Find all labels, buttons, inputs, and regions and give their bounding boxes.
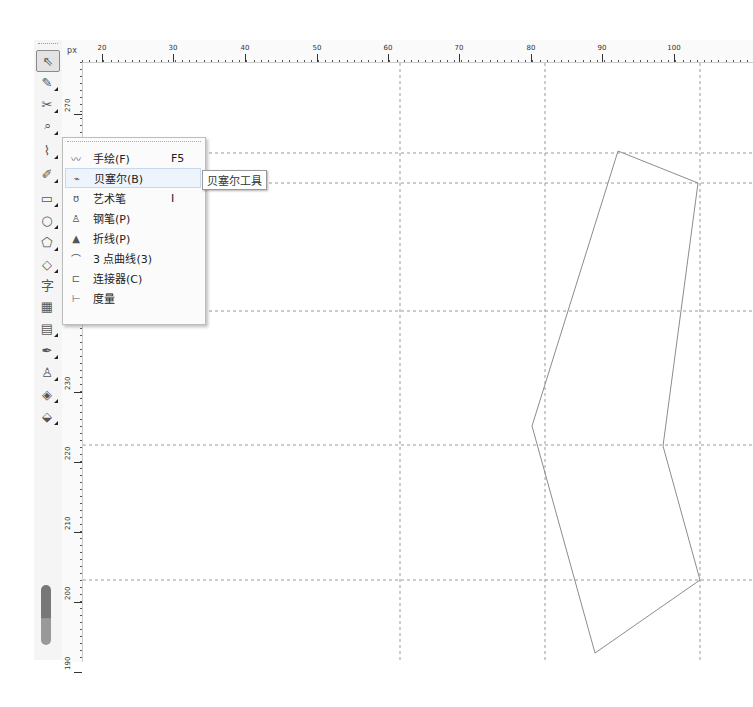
- ruler-tick: [575, 60, 576, 62]
- flyout-indicator-icon: [54, 377, 58, 381]
- ruler-tick: [411, 60, 412, 62]
- ruler-tick: [354, 60, 355, 62]
- menu-item-label: 艺术笔: [93, 190, 171, 206]
- ruler-tick: [80, 132, 82, 133]
- ruler-tick: [80, 349, 82, 350]
- menu-item-pen[interactable]: ♙钢笔(P): [65, 208, 201, 228]
- flyout-indicator-icon: [54, 155, 58, 159]
- ruler-tick: [325, 60, 326, 62]
- ruler-tick: [80, 517, 82, 518]
- flyout-indicator-icon: [54, 355, 58, 359]
- ruler-tick: [690, 60, 691, 62]
- ruler-tick: [618, 60, 619, 62]
- ruler-tick: [80, 69, 82, 70]
- toolbox-grip[interactable]: [38, 43, 58, 45]
- ruler-tick: [80, 125, 82, 126]
- menu-item-dimension[interactable]: ⊢度量: [65, 288, 201, 308]
- eyedropper-tool[interactable]: ✒: [36, 340, 58, 360]
- ruler-tick: [80, 384, 82, 385]
- scrollbar-thumb[interactable]: [41, 585, 51, 645]
- ruler-tick: [80, 636, 82, 637]
- pick-tool[interactable]: ⇖: [36, 50, 60, 72]
- fill-tool[interactable]: ◈: [36, 384, 58, 404]
- flyout-indicator-icon: [54, 203, 58, 207]
- ruler-tick: [80, 398, 82, 399]
- menu-item-bezier[interactable]: ⌁贝塞尔(B): [65, 168, 201, 188]
- ruler-tick: [80, 454, 82, 455]
- drawn-polygon[interactable]: [532, 151, 700, 653]
- ruler-tick: [697, 60, 698, 62]
- flyout-grip[interactable]: [67, 141, 201, 142]
- ruler-tick: [268, 60, 269, 62]
- outline-pen-tool-icon: ♙: [41, 365, 53, 380]
- interactive-fill-tool[interactable]: ⬙: [36, 406, 58, 426]
- ruler-tick: [418, 60, 419, 62]
- ruler-origin-corner[interactable]: px: [62, 40, 82, 62]
- zoom-tool[interactable]: ⌕: [36, 116, 58, 136]
- ruler-major-tick: [388, 54, 389, 62]
- ruler-label: 20: [98, 44, 107, 52]
- ruler-tick: [175, 60, 176, 62]
- ruler-tick: [339, 60, 340, 62]
- ruler-tick: [80, 496, 82, 497]
- ruler-tick: [225, 60, 226, 62]
- shape-tool[interactable]: ✎: [36, 72, 58, 92]
- menu-item-polyline[interactable]: ▲折线(P): [65, 228, 201, 248]
- ruler-tick: [511, 60, 512, 62]
- ruler-label: 50: [313, 44, 322, 52]
- ruler-label: 70: [455, 44, 464, 52]
- polygon-tool[interactable]: ⬠: [36, 232, 58, 252]
- ruler-tick: [125, 60, 126, 62]
- rectangle-tool[interactable]: ▭: [36, 188, 58, 208]
- menu-item-3-point-curve[interactable]: ⌒3 点曲线(3): [65, 248, 201, 268]
- horizontal-ruler[interactable]: 2030405060708090100: [82, 40, 753, 63]
- ruler-label: 30: [169, 44, 178, 52]
- menu-item-connector[interactable]: ⊏连接器(C): [65, 268, 201, 288]
- ruler-tick: [740, 60, 741, 62]
- zoom-tool-icon: ⌕: [44, 118, 51, 134]
- ruler-tick: [80, 363, 82, 364]
- table-tool-icon: ▦: [41, 299, 53, 314]
- ruler-major-tick: [74, 532, 82, 533]
- ruler-label: 100: [667, 44, 680, 52]
- flyout-indicator-icon: [54, 131, 58, 135]
- curve-tools-flyout: 〰手绘(F)F5⌁贝塞尔(B)ʊ艺术笔I♙钢笔(P)▲折线(P)⌒3 点曲线(3…: [62, 137, 206, 325]
- ruler-tick: [604, 60, 605, 62]
- ruler-major-tick: [102, 54, 103, 62]
- ruler-tick: [80, 356, 82, 357]
- ruler-tick: [80, 573, 82, 574]
- ruler-tick: [726, 60, 727, 62]
- flyout-indicator-icon: [54, 333, 58, 337]
- text-tool[interactable]: 字: [36, 274, 58, 294]
- ruler-tick: [80, 440, 82, 441]
- ruler-tick: [80, 650, 82, 651]
- ruler-tick: [554, 60, 555, 62]
- ruler-tick: [80, 552, 82, 553]
- ruler-tick: [425, 60, 426, 62]
- smart-fill-tool[interactable]: ✐: [36, 164, 58, 184]
- ruler-tick: [80, 545, 82, 546]
- ruler-tick: [211, 60, 212, 62]
- curve-tool[interactable]: ⌇: [36, 140, 58, 160]
- crop-tool[interactable]: ✂: [36, 94, 58, 114]
- ruler-tick: [80, 482, 82, 483]
- ruler-tick: [625, 60, 626, 62]
- flyout-indicator-icon: [54, 247, 58, 251]
- menu-item-artistic-media[interactable]: ʊ艺术笔I: [65, 188, 201, 208]
- ruler-tick: [239, 60, 240, 62]
- ellipse-tool[interactable]: ○: [36, 210, 58, 230]
- ruler-tick: [80, 62, 82, 63]
- 3-point-curve-icon: ⌒: [65, 251, 87, 266]
- table-tool[interactable]: ▦: [36, 296, 58, 316]
- menu-item-label: 钢笔(P): [93, 210, 171, 226]
- ruler-tick: [611, 60, 612, 62]
- menu-item-freehand[interactable]: 〰手绘(F)F5: [65, 148, 201, 168]
- outline-pen-tool[interactable]: ♙: [36, 362, 58, 382]
- ruler-tick: [80, 412, 82, 413]
- blend-tool[interactable]: ▤: [36, 318, 58, 338]
- ruler-tick: [747, 60, 748, 62]
- ruler-tick: [683, 60, 684, 62]
- ruler-tick: [80, 377, 82, 378]
- basic-shapes-tool[interactable]: ◇: [36, 254, 58, 274]
- ruler-tick: [468, 60, 469, 62]
